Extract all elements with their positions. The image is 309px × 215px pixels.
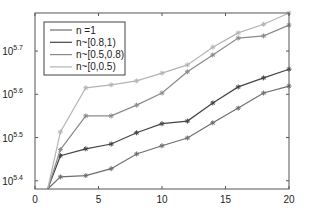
data-point-marker (210, 100, 215, 105)
data-point-marker (83, 85, 88, 90)
data-point-marker (185, 135, 190, 140)
data-point-marker (109, 142, 114, 147)
data-point-marker (261, 91, 266, 96)
data-point-marker (236, 106, 241, 111)
data-point-marker (134, 78, 139, 83)
x-tick-label: 10 (156, 194, 168, 205)
data-point-marker (58, 129, 63, 134)
data-point-marker (160, 121, 165, 126)
data-point-marker (160, 71, 165, 76)
data-point-marker (160, 143, 165, 148)
legend-label: n~[0,0.5) (76, 61, 116, 72)
data-point-marker (109, 82, 114, 87)
data-point-marker (261, 22, 266, 27)
data-point-marker (210, 52, 215, 57)
data-point-marker (83, 113, 88, 118)
data-point-marker (236, 84, 241, 89)
data-point-marker (185, 69, 190, 74)
data-point-marker (210, 120, 215, 125)
y-tick-label: 105.6 (2, 87, 23, 100)
y-tick-label: 105.7 (2, 44, 23, 57)
x-tick-label: 0 (32, 194, 38, 205)
data-point-marker (210, 45, 215, 50)
data-point-marker (236, 30, 241, 35)
legend-label: n =1 (76, 25, 96, 36)
x-tick-label: 15 (220, 194, 232, 205)
data-point-marker (185, 62, 190, 67)
legend: n =1n~[0.8,1)n~[0.5,0.8)n~[0,0.5) (44, 22, 125, 75)
data-point-marker (134, 151, 139, 156)
data-point-marker (109, 166, 114, 171)
data-point-marker (58, 174, 63, 179)
x-tick-label: 5 (96, 194, 102, 205)
x-tick-label: 20 (283, 194, 295, 205)
data-point-marker (261, 75, 266, 80)
data-point-marker (134, 130, 139, 135)
legend-label: n~[0.5,0.8) (76, 49, 124, 60)
data-point-marker (185, 119, 190, 124)
series-n-0-8-1- (48, 67, 292, 189)
data-point-marker (109, 113, 114, 118)
data-point-marker (83, 173, 88, 178)
data-point-marker (160, 91, 165, 96)
data-point-marker (83, 146, 88, 151)
data-point-marker (134, 103, 139, 108)
y-tick-label: 105.5 (2, 131, 23, 144)
legend-label: n~[0.8,1) (76, 37, 116, 48)
y-tick-label: 105.4 (2, 174, 23, 187)
data-point-marker (58, 147, 63, 152)
series-n-1 (48, 84, 292, 189)
data-point-marker (261, 33, 266, 38)
data-point-marker (236, 36, 241, 41)
line-chart: 05101520 105.4105.5105.6105.7 n =1n~[0.8… (0, 0, 309, 215)
